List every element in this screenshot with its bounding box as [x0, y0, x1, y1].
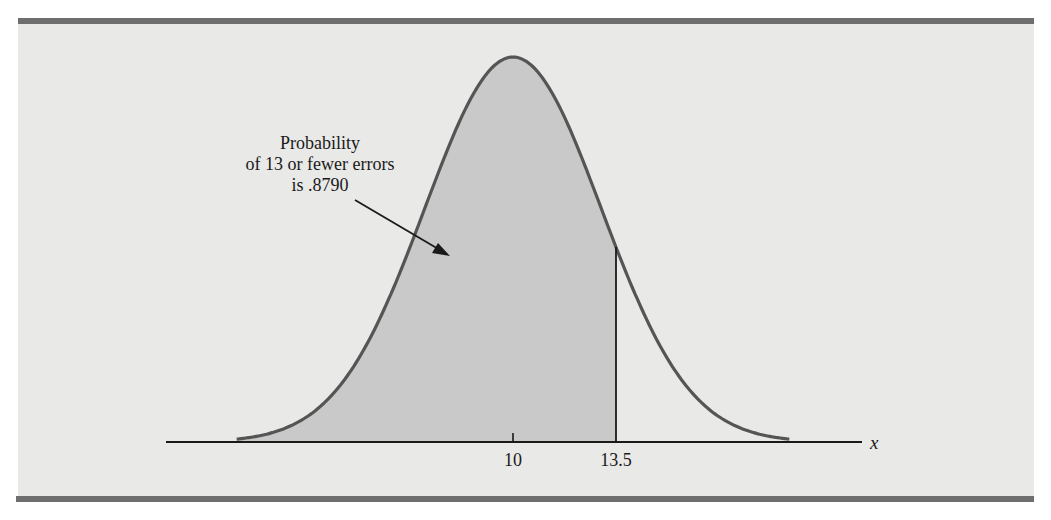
annotation-line-3: is .8790: [220, 175, 420, 196]
probability-annotation: Probability of 13 or fewer errors is .87…: [220, 133, 420, 196]
normal-curve-chart: [0, 0, 1051, 520]
annotation-line-2: of 13 or fewer errors: [220, 154, 420, 175]
shaded-area: [237, 57, 616, 442]
x-axis-label: x: [870, 432, 878, 454]
annotation-line-1: Probability: [220, 133, 420, 154]
tick-label-10: 10: [504, 450, 522, 471]
tick-label-13-5: 13.5: [600, 450, 632, 471]
